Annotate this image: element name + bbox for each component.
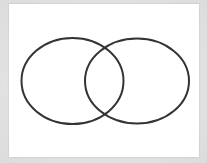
right-set-circle	[85, 39, 189, 124]
left-set-circle	[22, 38, 124, 124]
venn-diagram	[0, 0, 207, 163]
image-frame	[0, 0, 207, 163]
